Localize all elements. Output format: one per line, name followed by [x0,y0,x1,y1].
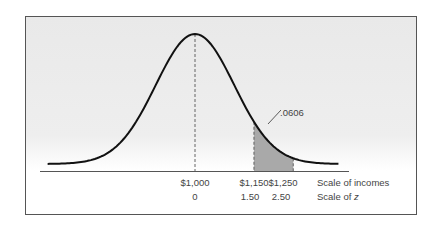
tick-income-1250: $1,250 [268,177,297,188]
tick-z-0: 0 [192,191,197,202]
tick-income-mean: $1,000 [180,177,209,188]
z-scale-label: Scale of z [317,191,359,202]
normal-curve-chart: .0606 $1,000 $1,150 $1,250 Scale of inco… [0,0,441,229]
tick-z-150: 1.50 [241,191,260,202]
tick-income-1150: $1,150 [239,177,268,188]
tick-z-250: 2.50 [272,191,291,202]
normal-curve [48,34,339,164]
income-scale-label: Scale of incomes [317,177,390,188]
area-annotation: .0606 [280,107,304,118]
